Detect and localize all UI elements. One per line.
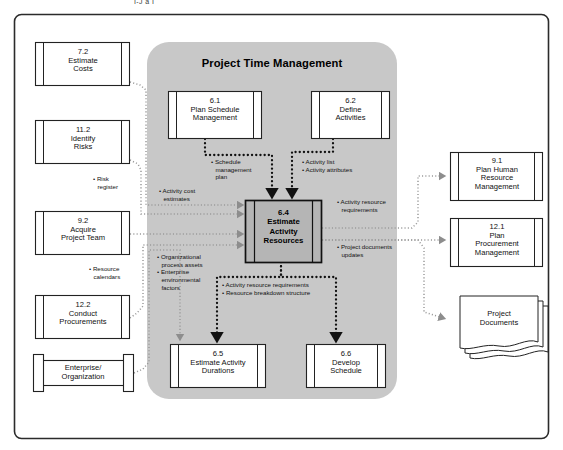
process-label-6-1: 6.1 Plan Schedule Management xyxy=(177,97,253,123)
datastore-line-2: Organization xyxy=(61,372,104,381)
flow-label-ace-1: • Activity cost xyxy=(159,187,195,195)
process-label-6-4: 6.4 Estimate Activity Resources xyxy=(255,208,312,245)
process-line-12-1-3: Management xyxy=(475,248,519,257)
flow-label-schedule-management-plan: • Schedule management plan xyxy=(211,158,252,181)
process-number-6-4: 6.4 xyxy=(278,208,289,217)
flow-label-opa-eef: • Organizational process assets • Enterp… xyxy=(157,253,203,291)
process-line-6-6-2: Schedule xyxy=(330,366,362,375)
panel-title: Project Time Management xyxy=(169,57,375,69)
process-line-9-1-3: Management xyxy=(475,182,519,191)
flow-label-activity-cost-estimates: • Activity cost estimates xyxy=(159,187,195,202)
flow-label-eef-3: factors xyxy=(157,284,203,292)
datastore-label-enterprise: Enterprise/ Organization xyxy=(44,364,122,381)
flow-label-pdu-1: • Project documents xyxy=(337,243,392,251)
flow-label-resource-calendars: • Resource calendars xyxy=(89,265,120,280)
process-line-7-2-2: Costs xyxy=(73,64,92,73)
process-line-6-4-3: Resources xyxy=(264,236,304,245)
process-line-9-2-2: Project Team xyxy=(61,233,105,242)
flow-label-eef-2: environmental xyxy=(157,276,203,284)
process-line-11-2-2: Risks xyxy=(74,142,93,151)
process-label-11-2: 11.2 Identify Risks xyxy=(44,126,122,152)
flow-label-project-documents-updates: • Project documents updates xyxy=(337,243,392,258)
flow-label-rc-2: calendars xyxy=(89,273,120,281)
process-label-6-6: 6.6 Develop Schedule xyxy=(315,350,377,376)
flow-label-opa-2: process assets xyxy=(157,261,203,269)
flow-label-rr-2: register xyxy=(93,183,118,191)
process-line-6-2-2: Activities xyxy=(336,113,366,122)
process-line-6-1-2: Management xyxy=(193,113,237,122)
process-line-6-4-2: Activity xyxy=(269,227,297,236)
document-line-2: Documents xyxy=(480,318,518,327)
document-label-project-documents: Project Documents xyxy=(462,310,536,327)
process-label-12-1: 12.1 Plan Procurement Management xyxy=(459,223,535,257)
flow-label-ala-2: • Activity attributes xyxy=(302,166,352,174)
flow-label-eef-1: • Enterprise xyxy=(157,268,203,276)
flow-label-rc-1: • Resource xyxy=(89,265,120,273)
flow-label-ala-1: • Activity list xyxy=(302,158,352,166)
flow-label-ace-2: estimates xyxy=(159,195,195,203)
flow-label-activity-list-attributes: • Activity list • Activity attributes xyxy=(302,158,352,173)
diagram-canvas: I-J a I Project Time Management 7.2 Esti… xyxy=(0,0,563,450)
flow-label-risk-register: • Risk register xyxy=(93,175,118,190)
process-label-7-2: 7.2 Estimate Costs xyxy=(44,48,122,74)
flow-label-pdu-2: updates xyxy=(337,251,392,259)
flow-label-arrrbs-1: • Activity resource requirements xyxy=(222,281,310,289)
flow-label-smp-3: plan xyxy=(211,173,252,181)
flow-label-arr-2: requirements xyxy=(337,206,386,214)
process-label-6-2: 6.2 Define Activities xyxy=(320,97,381,123)
process-line-12-2-2: Procurements xyxy=(59,317,106,326)
process-label-12-2: 12.2 Conduct Procurements xyxy=(44,301,122,327)
flow-label-rr-1: • Risk xyxy=(93,175,118,183)
process-label-6-5: 6.5 Estimate Activity Durations xyxy=(179,350,257,376)
flow-label-arr-1: • Activity resource xyxy=(337,198,386,206)
process-label-9-2: 9.2 Acquire Project Team xyxy=(44,217,122,243)
flow-label-opa-1: • Organizational xyxy=(157,253,203,261)
flow-label-arrrbs-2: • Resource breakdown structure xyxy=(222,289,310,297)
document-stack-project-documents xyxy=(460,296,548,359)
process-line-6-5-2: Durations xyxy=(202,366,235,375)
flow-label-smp-1: • Schedule xyxy=(211,158,252,166)
flow-label-arr-rbs: • Activity resource requirements • Resou… xyxy=(222,281,310,296)
flow-label-activity-resource-requirements: • Activity resource requirements xyxy=(337,198,386,213)
process-label-9-1: 9.1 Plan Human Resource Management xyxy=(459,157,535,191)
flow-label-smp-2: management xyxy=(211,166,252,174)
top-text-fragment: I-J a I xyxy=(134,0,154,5)
process-line-6-4-1: Estimate xyxy=(267,217,300,226)
